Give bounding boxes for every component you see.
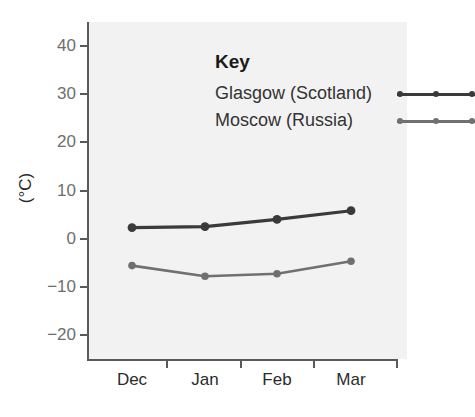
x-tick-label-feb: Feb [242, 370, 312, 390]
legend-title: Key [215, 50, 475, 74]
y-tick-30 [80, 93, 88, 95]
x-axis-end-cap [396, 359, 398, 368]
y-axis-line [87, 22, 89, 361]
x-tick-1 [240, 359, 242, 368]
y-axis-title: (°C) [16, 148, 36, 228]
y-tick-label--10: −10 [20, 278, 76, 295]
plot-area: Key Glasgow (Scotland) Moscow (Russia) [88, 22, 407, 359]
legend-item-glasgow: Glasgow (Scotland) [215, 80, 475, 107]
data-point-feb [273, 270, 281, 278]
y-tick-40 [80, 45, 88, 47]
legend-swatch-moscow [397, 118, 475, 124]
y-tick-20 [80, 141, 88, 143]
data-point-jan [201, 272, 209, 280]
y-tick-label-40: 40 [20, 37, 76, 54]
y-tick-0 [80, 238, 88, 240]
legend-swatch-glasgow [397, 91, 475, 97]
series-line-moscow [132, 261, 351, 276]
series-line-glasgow [132, 211, 351, 228]
data-point-dec [128, 262, 136, 270]
y-tick-label-0: 0 [20, 230, 76, 247]
data-point-jan [201, 222, 210, 231]
y-tick--20 [80, 334, 88, 336]
y-tick-10 [80, 190, 88, 192]
data-point-feb [273, 215, 282, 224]
y-tick--10 [80, 286, 88, 288]
legend-item-moscow: Moscow (Russia) [215, 107, 475, 134]
legend: Key Glasgow (Scotland) Moscow (Russia) [215, 50, 475, 134]
x-tick-2 [313, 359, 315, 368]
x-tick-0 [166, 359, 168, 368]
x-tick-label-mar: Mar [316, 370, 386, 390]
x-tick-label-dec: Dec [97, 370, 167, 390]
x-axis-line [87, 359, 398, 361]
y-tick-label-30: 30 [20, 85, 76, 102]
x-tick-label-jan: Jan [170, 370, 240, 390]
data-point-dec [128, 223, 137, 232]
data-point-mar [347, 206, 356, 215]
data-point-mar [347, 257, 355, 265]
y-tick-label--20: −20 [20, 326, 76, 343]
